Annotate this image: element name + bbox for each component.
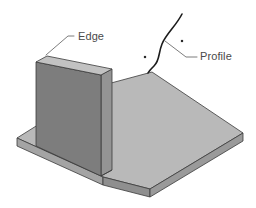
edge-leader-line bbox=[46, 36, 74, 55]
profile-label: Profile bbox=[200, 50, 232, 62]
wall-right-side-face bbox=[101, 69, 112, 176]
profile-leader-line bbox=[165, 41, 197, 57]
l-bracket-solid bbox=[17, 56, 243, 197]
edge-annotation: Edge bbox=[46, 30, 104, 55]
profile-point-marker-right bbox=[181, 40, 183, 42]
profile-point-marker-left bbox=[144, 56, 146, 58]
profile-curve bbox=[148, 14, 182, 73]
edge-label: Edge bbox=[78, 30, 104, 42]
isometric-diagram-canvas: Edge Profile bbox=[0, 0, 256, 208]
figure-root: Edge Profile bbox=[0, 0, 256, 208]
profile-annotation: Profile bbox=[165, 41, 232, 62]
